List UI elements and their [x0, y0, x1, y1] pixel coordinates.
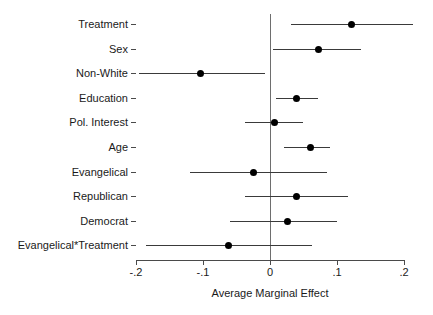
x-axis-tick-label: 0 [267, 266, 273, 279]
x-axis-tick [337, 260, 338, 265]
y-axis-tick [131, 172, 136, 173]
y-axis-tick [131, 122, 136, 123]
x-axis-tick [404, 260, 405, 265]
y-axis-tick [131, 49, 136, 50]
y-axis-tick [131, 24, 136, 25]
point-estimate-marker [197, 70, 204, 77]
coefficient-row: Democrat [0, 211, 433, 233]
point-estimate-marker [348, 21, 355, 28]
point-estimate-marker [293, 95, 300, 102]
y-axis-tick [131, 73, 136, 74]
y-axis-category-label: Education [0, 92, 128, 105]
coefficient-row: Education [0, 88, 433, 110]
point-estimate-marker [293, 193, 300, 200]
y-axis-category-label: Age [0, 141, 128, 154]
point-estimate-marker [250, 169, 257, 176]
coefficient-row: Evangelical*Treatment [0, 235, 433, 257]
y-axis-tick [131, 221, 136, 222]
coefficient-row: Treatment [0, 14, 433, 36]
coefficient-row: Republican [0, 186, 433, 208]
point-estimate-marker [225, 242, 232, 249]
x-axis-tick-label: .1 [332, 266, 341, 279]
y-axis-category-label: Pol. Interest [0, 116, 128, 129]
y-axis-category-label: Democrat [0, 215, 128, 228]
y-axis-category-label: Sex [0, 43, 128, 56]
x-axis-tick [203, 260, 204, 265]
point-estimate-marker [307, 144, 314, 151]
confidence-interval-line [190, 172, 327, 173]
x-axis-tick [136, 260, 137, 265]
coefficient-row: Sex [0, 39, 433, 61]
coefficient-row: Evangelical [0, 162, 433, 184]
y-axis-tick [131, 98, 136, 99]
coefficient-row: Non-White [0, 63, 433, 85]
x-axis-tick-label: .2 [399, 266, 408, 279]
x-axis-title: Average Marginal Effect [136, 287, 404, 300]
point-estimate-marker [315, 46, 322, 53]
y-axis-category-label: Evangelical [0, 166, 128, 179]
coefficient-row: Pol. Interest [0, 112, 433, 134]
coefficient-row: Age [0, 137, 433, 159]
y-axis-category-label: Non-White [0, 67, 128, 80]
y-axis-category-label: Treatment [0, 18, 128, 31]
y-axis-category-label: Republican [0, 190, 128, 203]
x-axis-tick-label: -.1 [197, 266, 210, 279]
y-axis-category-label: Evangelical*Treatment [0, 239, 128, 252]
x-axis-tick [270, 260, 271, 265]
x-axis-tick-label: -.2 [130, 266, 143, 279]
y-axis-tick [131, 196, 136, 197]
point-estimate-marker [271, 119, 278, 126]
y-axis-tick [131, 147, 136, 148]
coefficient-plot-figure: TreatmentSexNon-WhiteEducationPol. Inter… [0, 0, 433, 315]
point-estimate-marker [284, 218, 291, 225]
y-axis-tick [131, 245, 136, 246]
